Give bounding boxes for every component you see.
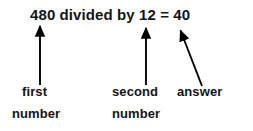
arrow-to-answer	[181, 31, 203, 87]
label-second-number-line2: number	[112, 106, 160, 122]
label-answer: answer	[177, 84, 222, 100]
label-second-number-line1: second	[112, 84, 158, 100]
label-first-number-line2: number	[12, 106, 60, 122]
label-first-number-line1: first	[22, 84, 47, 100]
diagram-canvas: 480 divided by 12 = 40 first number seco…	[0, 0, 253, 131]
